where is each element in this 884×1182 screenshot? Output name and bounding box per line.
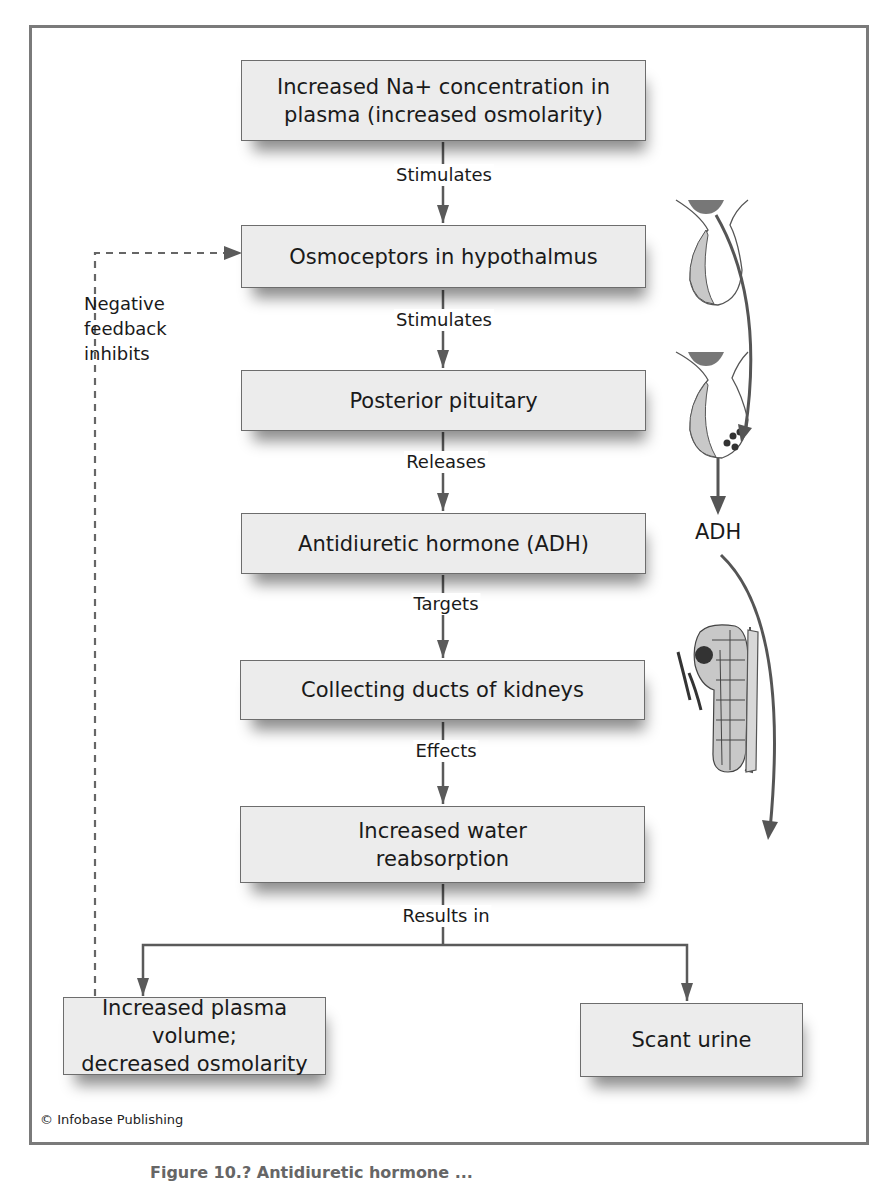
- box-plasma-volume: Increased plasma volume; decreased osmol…: [63, 997, 326, 1075]
- box-text: Scant urine: [632, 1026, 752, 1054]
- adh-label: ADH: [695, 520, 741, 544]
- edge-label-releases: Releases: [404, 451, 488, 473]
- box-collecting-ducts: Collecting ducts of kidneys: [240, 660, 645, 720]
- box-text: Collecting ducts of kidneys: [301, 676, 584, 704]
- figure-frame: [29, 25, 869, 1145]
- box-osmoceptors: Osmoceptors in hypothalmus: [241, 225, 646, 288]
- box-scant-urine: Scant urine: [580, 1003, 803, 1077]
- edge-label-stimulates-1: Stimulates: [394, 164, 494, 186]
- edge-label-results-in: Results in: [400, 905, 491, 927]
- box-text: Increased water reabsorption: [358, 817, 527, 873]
- box-text: Posterior pituitary: [349, 387, 537, 415]
- box-text: Antidiuretic hormone (ADH): [298, 530, 589, 558]
- negative-feedback-label: Negative feedback inhibits: [84, 291, 167, 366]
- box-text: Osmoceptors in hypothalmus: [289, 243, 598, 271]
- box-increased-na: Increased Na+ concentration in plasma (i…: [241, 60, 646, 141]
- box-adh: Antidiuretic hormone (ADH): [241, 513, 646, 574]
- box-text: Increased plasma volume; decreased osmol…: [64, 994, 325, 1078]
- edge-label-targets: Targets: [411, 593, 480, 615]
- edge-label-effects: Effects: [413, 740, 478, 762]
- edge-label-stimulates-2: Stimulates: [394, 309, 494, 331]
- box-text: Increased Na+ concentration in plasma (i…: [277, 73, 610, 129]
- box-posterior-pituitary: Posterior pituitary: [241, 370, 646, 431]
- box-water-reabsorption: Increased water reabsorption: [240, 806, 645, 883]
- figure-caption: Figure 10.? Antidiuretic hormone ...: [150, 1163, 473, 1182]
- copyright-credit: © Infobase Publishing: [40, 1112, 183, 1127]
